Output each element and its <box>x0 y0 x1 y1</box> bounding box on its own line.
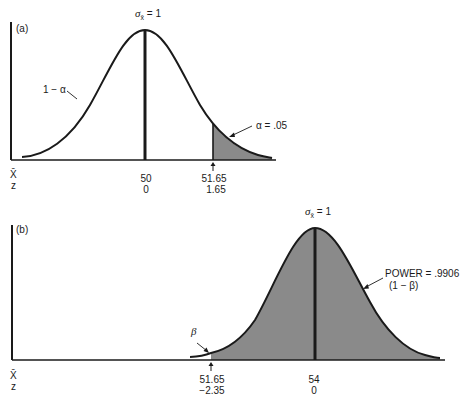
tick-mean-z: 0 <box>311 385 317 396</box>
beta-label: β <box>191 326 196 337</box>
tick-mean-z: 0 <box>143 184 149 195</box>
tick-critical-z: 1.65 <box>206 184 225 195</box>
figure-canvas <box>0 0 462 402</box>
tick-critical-xbar: 51.65 <box>199 374 224 385</box>
power-shaded-region <box>211 228 440 360</box>
sigma-label-a: σx̄ = 1 <box>135 8 161 23</box>
xbar-axis-label: X̄ <box>10 169 17 180</box>
tick-mean-xbar: 50 <box>140 173 151 184</box>
critical-arrow-icon <box>211 162 216 166</box>
xbar-axis-label: X̄ <box>10 370 17 381</box>
z-axis-label: z <box>11 381 16 392</box>
tick-critical-xbar: 51.65 <box>201 173 226 184</box>
power-arrow-icon <box>363 284 369 289</box>
tick-critical-z: −2.35 <box>199 385 224 396</box>
one-minus-alpha-label: 1 − α <box>43 84 66 95</box>
critical-arrow-icon <box>209 362 214 366</box>
alpha-label: α = .05 <box>256 120 287 131</box>
power-label: POWER = .9906 <box>385 268 459 279</box>
alpha-arrow-icon <box>229 133 235 138</box>
panel-b <box>12 225 445 371</box>
panel-a <box>11 22 276 171</box>
panel-a-label: (a) <box>16 23 28 34</box>
one-minus-beta-label: (1 − β) <box>389 280 418 291</box>
sigma-label-b: σx̄ = 1 <box>305 206 331 221</box>
panel-b-label: (b) <box>16 224 28 235</box>
z-axis-label: z <box>11 180 16 191</box>
tick-mean-xbar: 54 <box>308 374 319 385</box>
